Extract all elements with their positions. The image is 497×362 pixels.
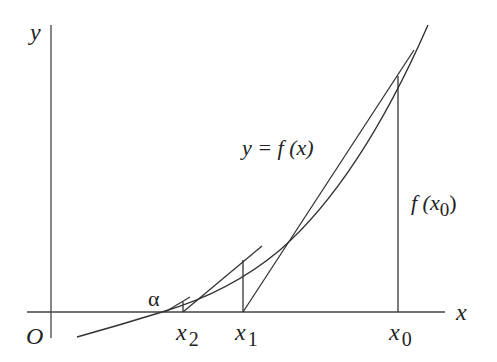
newton-method-diagram: y x O y = f (x) α x2 x1 x0 f (x0) <box>0 0 497 362</box>
function-curve <box>77 25 428 337</box>
tangent-at-x0 <box>243 50 414 312</box>
root-alpha-label: α <box>148 286 160 311</box>
y-axis-label: y <box>28 19 41 45</box>
x-axis-label: x <box>455 299 467 325</box>
x2-label: x2 <box>175 319 199 350</box>
origin-label: O <box>26 323 43 349</box>
fx0-label: f (x0) <box>411 190 457 220</box>
x1-label: x1 <box>234 319 258 350</box>
curve-label: y = f (x) <box>240 135 314 160</box>
x0-label: x0 <box>388 319 412 350</box>
